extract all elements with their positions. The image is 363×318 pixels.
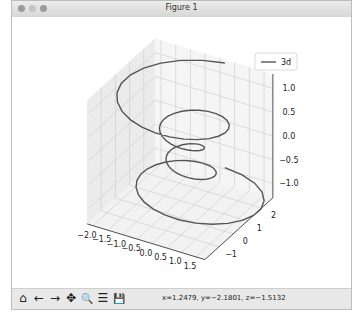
z-tick-label: 0.5 xyxy=(283,108,296,117)
y-tick-label: 2 xyxy=(271,211,276,220)
configure-subplots-icon[interactable]: ☰ xyxy=(96,291,110,306)
figure-window: Figure 1 −2.0−1.5−1.0−0.50.00.51.01.5−10… xyxy=(11,0,352,310)
title-bar: Figure 1 xyxy=(12,1,351,18)
x-tick-label: 0.0 xyxy=(140,249,153,258)
z-tick-label: 0.0 xyxy=(283,132,296,141)
x-tick-label: 0.5 xyxy=(154,253,167,262)
save-icon[interactable]: 💾 xyxy=(112,291,126,306)
plot-canvas[interactable]: −2.0−1.5−1.0−0.50.00.51.01.5−1012−1.0−0.… xyxy=(12,17,351,289)
x-tick-label: 1.5 xyxy=(184,262,197,271)
forward-icon[interactable]: → xyxy=(48,291,62,306)
pan-icon[interactable]: ✥ xyxy=(64,291,78,306)
axes-3d[interactable]: −2.0−1.5−1.0−0.50.00.51.01.5−1012−1.0−0.… xyxy=(12,17,351,289)
navigation-toolbar: ⌂ ← → ✥ 🔍 ☰ 💾 x=1.2479, y=−2.1801, z=−1.… xyxy=(12,288,351,309)
cursor-coordinates: x=1.2479, y=−2.1801, z=−1.5132 xyxy=(162,294,286,302)
z-tick-label: −1.0 xyxy=(279,179,298,188)
x-tick-label: 1.0 xyxy=(169,257,182,266)
legend-label: 3d xyxy=(281,58,291,67)
z-tick-label: −0.5 xyxy=(279,156,298,165)
x-tick-label: −0.5 xyxy=(121,244,140,253)
zoom-icon[interactable]: 🔍 xyxy=(80,291,94,306)
home-icon[interactable]: ⌂ xyxy=(16,291,30,306)
y-tick-label: −1 xyxy=(225,250,237,259)
back-icon[interactable]: ← xyxy=(32,291,46,306)
y-tick-label: 1 xyxy=(257,224,262,233)
z-tick-label: 1.0 xyxy=(283,84,296,93)
y-tick-label: 0 xyxy=(243,237,248,246)
window-title: Figure 1 xyxy=(12,3,351,12)
